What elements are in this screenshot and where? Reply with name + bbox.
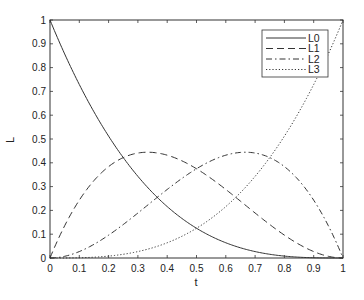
y-tick-label: 0.3 <box>32 181 46 192</box>
y-tick-label: 1 <box>40 15 46 26</box>
y-tick-label: 0.1 <box>32 229 46 240</box>
x-tick-label: 0.7 <box>248 263 262 274</box>
legend: L0L1L2L3 <box>262 30 328 77</box>
x-tick-label: 0 <box>47 263 53 274</box>
x-axis-label: t <box>194 276 197 288</box>
x-tick-label: 0.2 <box>102 263 116 274</box>
y-tick-label: 0 <box>40 253 46 264</box>
line-chart: 00.10.20.30.40.50.60.70.80.9100.10.20.30… <box>0 0 364 300</box>
y-tick-label: 0.2 <box>32 205 46 216</box>
y-tick-label: 0.9 <box>32 38 46 49</box>
y-tick-label: 0.4 <box>32 157 46 168</box>
x-tick-label: 0.8 <box>277 263 291 274</box>
x-tick-label: 0.5 <box>190 263 204 274</box>
y-tick-label: 0.6 <box>32 110 46 121</box>
x-tick-label: 0.1 <box>72 263 86 274</box>
x-tick-label: 1 <box>340 263 346 274</box>
y-tick-label: 0.7 <box>32 86 46 97</box>
y-axis-label: L <box>4 137 16 143</box>
x-tick-label: 0.4 <box>160 263 174 274</box>
y-tick-label: 0.5 <box>32 134 46 145</box>
y-tick-label: 0.8 <box>32 62 46 73</box>
x-tick-label: 0.6 <box>219 263 233 274</box>
legend-label-l3: L3 <box>308 63 320 75</box>
x-tick-label: 0.3 <box>131 263 145 274</box>
x-tick-label: 0.9 <box>307 263 321 274</box>
